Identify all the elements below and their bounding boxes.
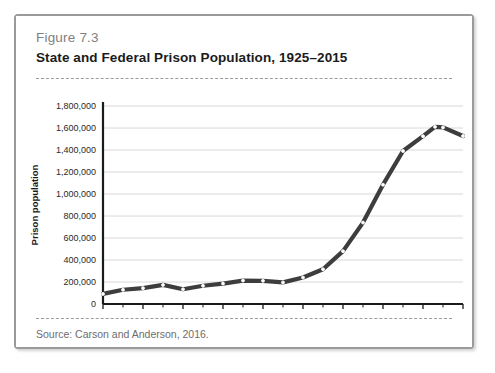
svg-text:1,400,000: 1,400,000 bbox=[56, 145, 96, 155]
figure-frame: Figure 7.3 State and Federal Prison Popu… bbox=[14, 14, 474, 349]
data-point-markers bbox=[102, 125, 465, 295]
svg-text:1935: 1935 bbox=[133, 312, 153, 314]
svg-text:Prison population: Prison population bbox=[29, 164, 40, 245]
line-chart-svg: 0200,000400,000600,000800,0001,000,0001,… bbox=[16, 82, 472, 314]
svg-text:1995: 1995 bbox=[373, 312, 393, 314]
svg-text:600,000: 600,000 bbox=[63, 233, 96, 243]
x-tick-labels: 1925193519451955196519751985199520052015 bbox=[93, 312, 472, 314]
gridlines bbox=[103, 106, 463, 282]
svg-text:200,000: 200,000 bbox=[63, 277, 96, 287]
figure-inner: Figure 7.3 State and Federal Prison Popu… bbox=[16, 16, 472, 347]
svg-text:1955: 1955 bbox=[213, 312, 233, 314]
svg-text:400,000: 400,000 bbox=[63, 255, 96, 265]
svg-text:2005: 2005 bbox=[413, 312, 433, 314]
svg-text:2015: 2015 bbox=[453, 312, 472, 314]
svg-text:1,800,000: 1,800,000 bbox=[56, 101, 96, 111]
data-series-line bbox=[103, 127, 463, 294]
y-axis-title: Prison population bbox=[29, 164, 40, 245]
divider-top bbox=[36, 78, 452, 79]
svg-text:0: 0 bbox=[91, 299, 96, 309]
svg-text:1,600,000: 1,600,000 bbox=[56, 123, 96, 133]
svg-text:1975: 1975 bbox=[293, 312, 313, 314]
y-tick-labels: 0200,000400,000600,000800,0001,000,0001,… bbox=[56, 101, 96, 309]
svg-text:800,000: 800,000 bbox=[63, 211, 96, 221]
svg-text:1945: 1945 bbox=[173, 312, 193, 314]
svg-text:1985: 1985 bbox=[333, 312, 353, 314]
svg-text:1965: 1965 bbox=[253, 312, 273, 314]
chart-plot: 0200,000400,000600,000800,0001,000,0001,… bbox=[16, 82, 472, 314]
divider-bottom bbox=[36, 318, 452, 319]
svg-text:1,200,000: 1,200,000 bbox=[56, 167, 96, 177]
figure-number: Figure 7.3 bbox=[36, 30, 99, 45]
svg-text:1925: 1925 bbox=[93, 312, 113, 314]
figure-title: State and Federal Prison Population, 192… bbox=[36, 50, 347, 65]
svg-text:1,000,000: 1,000,000 bbox=[56, 189, 96, 199]
x-axis bbox=[103, 304, 463, 309]
source-note: Source: Carson and Anderson, 2016. bbox=[36, 328, 209, 340]
